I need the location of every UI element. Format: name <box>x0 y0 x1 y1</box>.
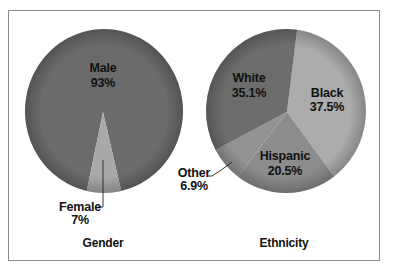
ethnicity-pie: White 35.1% Black 37.5% Hispanic 20.5% O… <box>178 29 366 250</box>
label-hispanic-name: Hispanic <box>260 149 311 163</box>
chart-title-gender: Gender <box>83 236 124 250</box>
pie-charts: Male 93% Female 7% Gender White 35.1% Bl… <box>0 0 393 269</box>
label-hispanic-pct: 20.5% <box>268 164 303 178</box>
label-white-name: White <box>232 71 265 85</box>
gender-pie: Male 93% Female 7% Gender <box>25 29 183 250</box>
label-female-name: Female <box>59 200 101 214</box>
label-male-pct: 93% <box>91 76 116 90</box>
label-other-pct: 6.9% <box>180 179 208 193</box>
label-black-pct: 37.5% <box>310 100 345 114</box>
pie-shading <box>25 29 183 193</box>
label-white-pct: 35.1% <box>232 86 267 100</box>
label-black-name: Black <box>311 86 344 100</box>
label-male-name: Male <box>90 61 117 75</box>
chart-title-ethnicity: Ethnicity <box>260 236 309 250</box>
label-female-pct: 7% <box>71 213 89 227</box>
label-other-name: Other <box>178 166 211 180</box>
